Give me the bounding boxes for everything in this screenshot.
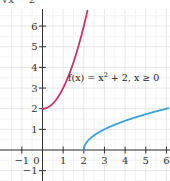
y-tick-label: −1 [23, 165, 38, 176]
y-tick-label: 1 [31, 124, 37, 135]
curve-f [43, 11, 88, 109]
y-tick-label: 6 [31, 21, 37, 32]
function-graph: −10123456−1123456 √x − 2 f(x) = x2 + 2, … [0, 0, 170, 181]
x-tick-label: 4 [122, 155, 128, 166]
function-label: f(x) = x2 + 2, x ≥ 0 [68, 71, 159, 83]
x-tick-label: 5 [143, 155, 149, 166]
y-tick-label: 3 [31, 83, 37, 94]
y-tick-label: 5 [31, 41, 37, 52]
function-label-rest: + 2, x ≥ 0 [108, 72, 160, 83]
x-tick-label: 6 [163, 155, 169, 166]
y-tick-label: 2 [31, 103, 37, 114]
y-tick-label: 4 [31, 62, 37, 73]
x-tick-label: 1 [60, 155, 66, 166]
x-tick-label: 2 [81, 155, 87, 166]
x-tick-label: 3 [101, 155, 107, 166]
function-label-main: f(x) = x [68, 72, 104, 83]
clipped-inverse-label: √x − 2 [2, 0, 35, 5]
